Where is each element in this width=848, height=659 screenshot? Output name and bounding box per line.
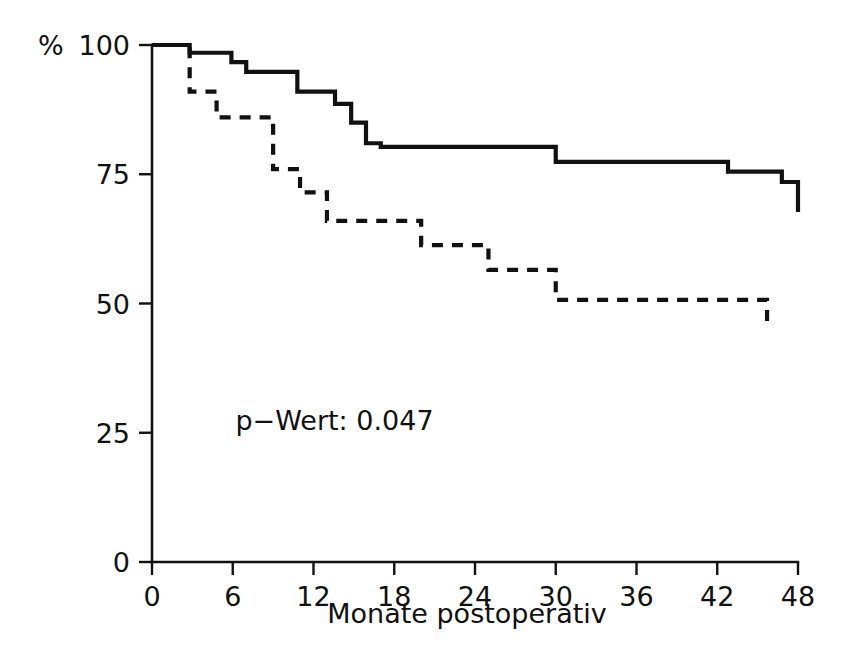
x-tick-label-42: 42 [700,581,734,612]
x-axis-title: Monate postoperativ [327,598,607,629]
y-axis-unit-label: % [38,30,64,61]
survival-chart-figure: 0612182430364248 0255075100 % Monate pos… [0,0,848,659]
y-tick-label-100: 100 [78,30,130,61]
y-tick-label-75: 75 [96,159,130,190]
y-tick-labels: 0255075100 [78,30,130,578]
x-tick-label-36: 36 [619,581,653,612]
chart-canvas: 0612182430364248 0255075100 % Monate pos… [0,0,848,659]
axis-lines [152,45,798,562]
data-series [152,45,798,329]
y-tick-label-0: 0 [113,547,130,578]
y-tick-label-50: 50 [96,289,130,320]
y-tick-label-25: 25 [96,418,130,449]
x-tick-label-12: 12 [296,581,330,612]
x-tick-label-6: 6 [224,581,241,612]
series-solid-curve [152,45,798,212]
x-tick-label-0: 0 [143,581,160,612]
series-dashed-curve [152,45,767,329]
p-value-annotation: p−Wert: 0.047 [235,405,433,436]
tick-marks [139,45,798,575]
axes [152,45,798,562]
x-tick-label-48: 48 [781,581,815,612]
